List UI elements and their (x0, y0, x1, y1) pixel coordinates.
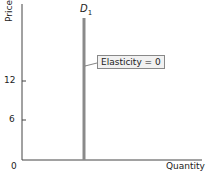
y-tick-label-6: 6 (9, 114, 15, 124)
y-tick-label-12: 12 (4, 75, 15, 85)
elasticity-annotation: Elasticity = 0 (97, 55, 165, 69)
demand-curve-label: D1 (80, 3, 92, 17)
demand-label-sub: 1 (88, 9, 92, 17)
y-axis-label: Price (4, 0, 14, 24)
chart-canvas (0, 0, 218, 184)
demand-label-main: D (80, 3, 88, 14)
x-axis-label: Quantity (166, 161, 205, 171)
origin-label: 0 (11, 161, 17, 171)
annotation-connector (85, 63, 97, 66)
